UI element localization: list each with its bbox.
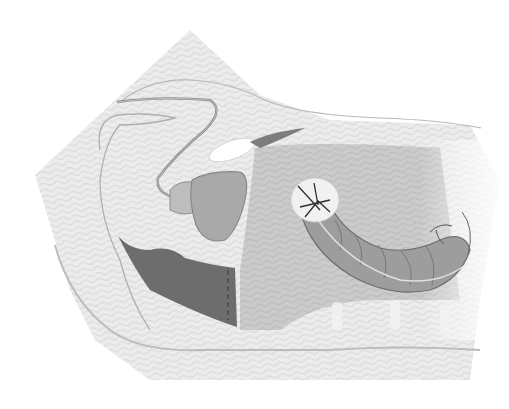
stoma (291, 178, 339, 222)
anatomical-illustration (0, 0, 509, 409)
